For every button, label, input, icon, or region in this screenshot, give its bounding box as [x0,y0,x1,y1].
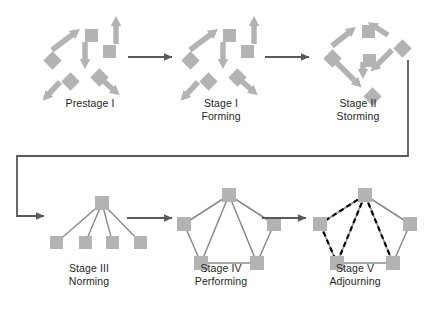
cluster-stage-5-adjourning [313,188,417,270]
stage-label-stage-3-norming: Stage IIINorming [14,262,164,287]
stage-label-line: Prestage I [15,97,165,110]
cluster-node-diamond [199,72,217,90]
cluster-stage-1-forming [181,21,254,97]
cluster-stage-3-norming [50,196,147,249]
stage-label-line: Stage I [146,97,296,110]
hierarchy-member-node-2 [106,236,119,249]
cluster-node-diamond [61,72,79,90]
hierarchy-member-node-0 [50,236,63,249]
stage-label-line: Stage II [283,97,433,110]
pentagon-dashed-edge-node-top-node-bottom-right [365,195,393,263]
cluster-node-square [362,25,375,38]
flow-arrows-layer [127,57,309,218]
stage-label-prestage-1: Prestage I [15,97,165,110]
stage-label-line: Norming [14,275,164,288]
pentagon-node-left [177,217,191,231]
cluster-node-square [223,29,236,42]
scatter-arrow-down-left [46,82,60,97]
cluster-node-diamond [43,51,61,69]
stage-label-stage-1-forming: Stage IForming [146,97,296,122]
storming-arrow-downleft [374,50,392,68]
cluster-node-square [85,29,98,42]
scatter-arrow-down-left [184,82,198,97]
cluster-node-diamond [393,39,411,57]
cluster-node-square [103,45,116,58]
pentagon-node-right [403,217,417,231]
stage-label-line: Adjourning [280,275,430,288]
stage-label-line: Stage III [14,262,164,275]
diagram-root: Prestage IStage IFormingStage IIStorming… [0,0,443,317]
hierarchy-member-node-1 [79,236,92,249]
scatter-arrow-up-right [190,32,214,50]
cluster-node-square [241,45,254,58]
stage-label-line: Storming [283,110,433,123]
pentagon-node-right [267,217,281,231]
stage-label-line: Forming [146,110,296,123]
scatter-arrow-up-right [52,32,76,50]
cluster-stage-4-performing [177,188,281,270]
stage-label-line: Performing [146,275,296,288]
stage-label-stage-4-performing: Stage IVPerforming [146,262,296,287]
pentagon-edge-node-top-node-bottom-right [229,195,257,263]
cluster-node-square [363,54,376,67]
storming-arrow-upright [332,30,352,46]
cluster-node-diamond [181,51,199,69]
cluster-prestage-1 [43,21,116,97]
pentagon-node-top [222,188,236,202]
stage-label-stage-5-adjourning: Stage VAdjourning [280,262,430,287]
cluster-stage-2-storming [323,25,411,106]
stage-label-line: Stage IV [146,262,296,275]
pentagon-node-top [358,188,372,202]
hierarchy-leader-node [95,196,109,210]
hierarchy-member-node-3 [134,236,147,249]
stage-label-line: Stage V [280,262,430,275]
stage-clusters-layer [43,21,417,270]
pentagon-node-left [313,217,327,231]
pentagon-edge-node-top-node-bottom-left [201,195,229,263]
stage-label-stage-2-storming: Stage IIStorming [283,97,433,122]
